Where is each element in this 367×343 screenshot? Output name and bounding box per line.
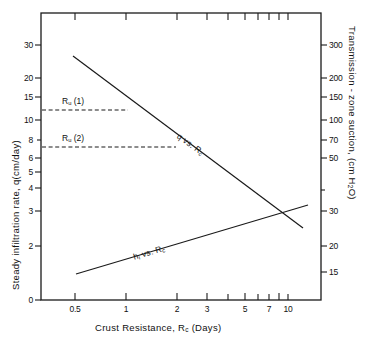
xtick-10: 10: [276, 304, 300, 314]
ytick-right-300: 300: [329, 40, 343, 50]
plot-frame: [41, 13, 321, 300]
ytick-right-70: 70: [329, 135, 338, 145]
left-axis-ticks: [35, 45, 41, 300]
ytick-left-0: 0: [8, 295, 33, 305]
y-right-title-pre: Transmission - zone suction, (cm H: [347, 26, 358, 185]
x-title-post: (Days): [189, 322, 222, 333]
xtick-3: 3: [195, 304, 219, 314]
bottom-axis-ticks: [75, 293, 288, 300]
y-right-title-post: O): [347, 189, 358, 200]
ytick-right-150: 150: [329, 92, 343, 102]
ru1-post: (1): [71, 96, 84, 106]
y-axis-left-title: Steady infiltration rate, q(cm/day): [10, 140, 21, 290]
ytick-left-30: 30: [8, 40, 33, 50]
ytick-right-30: 30: [329, 206, 338, 216]
series-line-hi-vs-rc: [76, 205, 308, 274]
right-axis-ticks: [321, 45, 327, 272]
ytick-left-10: 10: [8, 115, 33, 125]
ytick-right-100: 100: [329, 115, 343, 125]
xtick-5: 5: [233, 304, 257, 314]
label-ru1: Ru (1): [62, 96, 84, 106]
chart-plot-area: [0, 0, 367, 343]
xtick-2: 2: [165, 304, 189, 314]
label-ru2: Ru (2): [62, 133, 84, 143]
xtick-0.5: 0.5: [63, 304, 87, 314]
x-axis-title: Crust Resistance, Rc (Days): [95, 322, 221, 333]
top-axis-ticks: [75, 13, 288, 20]
ytick-left-15: 15: [8, 92, 33, 102]
xtick-1: 1: [114, 304, 138, 314]
ytick-left-20: 20: [8, 73, 33, 83]
ytick-right-50: 50: [329, 153, 338, 163]
x-title-pre: Crust Resistance, R: [95, 322, 185, 333]
ytick-right-15: 15: [329, 267, 338, 277]
figure-container: 30 20 15 10 8 6 5 4 3 2 0 300 200 150 10…: [0, 0, 367, 343]
ytick-right-200: 200: [329, 73, 343, 83]
ytick-right-20: 20: [329, 241, 338, 251]
y-axis-right-title: Transmission - zone suction, (cm H2O): [347, 26, 358, 200]
ru2-post: (2): [71, 133, 84, 143]
